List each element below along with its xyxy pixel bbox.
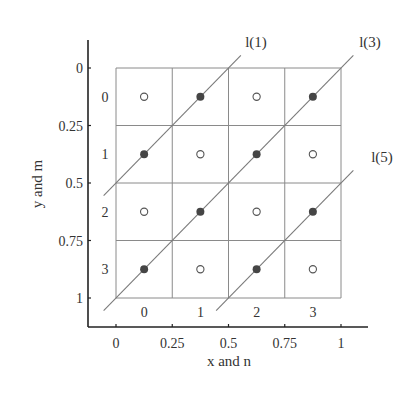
col-label: 1	[197, 305, 204, 320]
y-tick-label: 0.75	[59, 234, 84, 249]
y-tick-label: 1	[76, 291, 83, 306]
open-dot	[253, 208, 260, 215]
col-label: 3	[309, 305, 316, 320]
x-tick-label: 1	[338, 336, 345, 351]
row-label: 3	[102, 262, 109, 277]
y-axis-label: y and m	[29, 160, 45, 209]
open-dot	[253, 93, 260, 100]
filled-dot	[309, 93, 317, 101]
lattice-diagram: 00.250.50.75100.250.50.751 01230123l(1)l…	[0, 0, 412, 394]
row-label: 1	[102, 147, 109, 162]
y-tick-label: 0.5	[66, 176, 84, 191]
filled-dot	[253, 150, 261, 158]
y-tick-label: 0	[76, 61, 83, 76]
row-label: 0	[102, 90, 109, 105]
open-dot	[197, 266, 204, 273]
filled-dot	[309, 208, 317, 216]
x-tick-label: 0.75	[273, 336, 298, 351]
labels: 01230123l(1)l(3)l(5)	[102, 34, 393, 320]
x-tick-label: 0.5	[220, 336, 238, 351]
filled-dot	[253, 265, 261, 273]
filled-dot	[196, 93, 204, 101]
y-tick-label: 0.25	[59, 119, 84, 134]
open-dot	[141, 208, 148, 215]
line-label: l(3)	[359, 34, 381, 51]
open-dot	[141, 93, 148, 100]
open-dot	[309, 151, 316, 158]
col-label: 2	[253, 305, 260, 320]
open-dot	[309, 266, 316, 273]
filled-dot	[196, 208, 204, 216]
filled-dot	[140, 150, 148, 158]
row-label: 2	[102, 205, 109, 220]
line-label: l(5)	[371, 149, 393, 166]
x-tick-label: 0	[113, 336, 120, 351]
x-tick-label: 0.25	[160, 336, 185, 351]
filled-dot	[140, 265, 148, 273]
x-axis-label: x and n	[207, 353, 252, 369]
col-label: 0	[141, 305, 148, 320]
line-label: l(1)	[245, 34, 267, 51]
open-dot	[197, 151, 204, 158]
